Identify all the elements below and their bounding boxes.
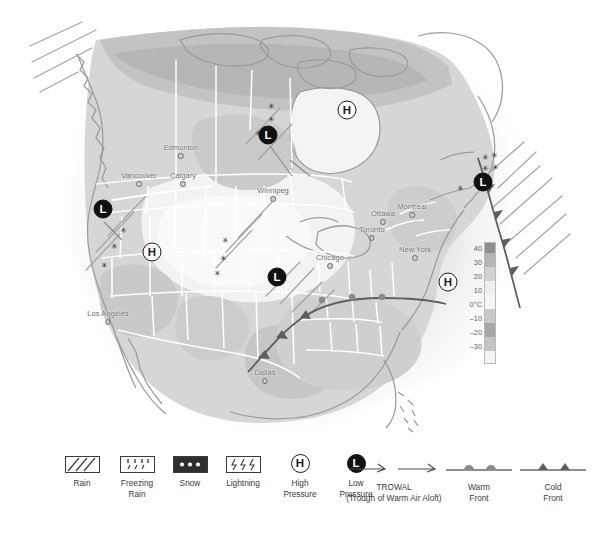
city-label: Los Angeles <box>87 310 128 318</box>
low-pressure-marker[interactable]: L <box>94 200 113 219</box>
temp-tick: –10 <box>470 315 482 323</box>
high-pressure-marker[interactable]: H <box>338 101 357 120</box>
temperature-tick-labels: 40 30 20 10 0°C –10 –20 –30 <box>455 236 482 370</box>
temp-tick: 0°C <box>470 301 482 309</box>
colorbar-segment <box>485 323 495 337</box>
legend-label: Cold <box>516 482 590 493</box>
city-dot <box>409 212 415 218</box>
city-marker[interactable]: Dallas <box>254 369 275 384</box>
rain-icon <box>65 456 100 473</box>
city-marker[interactable]: Calgary <box>170 172 196 187</box>
city-marker[interactable]: Vancouver <box>121 172 157 187</box>
legend-label: Snow <box>166 478 214 489</box>
city-label: Chicago <box>316 254 344 262</box>
city-dot <box>262 378 268 384</box>
city-marker[interactable]: New York <box>399 246 431 261</box>
snow-symbol: ✳ <box>482 155 487 160</box>
snow-symbol: ✳ <box>482 166 487 171</box>
city-dot <box>105 319 111 325</box>
city-dot <box>180 181 186 187</box>
colorbar-segment <box>485 295 495 309</box>
city-marker[interactable]: Ottawa <box>371 210 395 225</box>
city-label: Montreal <box>397 203 427 211</box>
temp-tick: 30 <box>474 259 482 267</box>
snow-symbol: ✳ <box>268 104 273 109</box>
city-dot <box>327 263 333 269</box>
colorbar-segment <box>485 267 495 281</box>
city-label: Dallas <box>254 369 275 377</box>
city-marker[interactable]: Edmonton <box>164 144 199 159</box>
colorbar-segment <box>485 337 495 351</box>
city-label: New York <box>399 246 431 254</box>
legend-label-line2: Front <box>442 493 516 504</box>
city-label: Edmonton <box>164 144 199 152</box>
low-pressure-marker[interactable]: L <box>268 268 287 287</box>
city-dot <box>136 181 142 187</box>
city-dot <box>369 235 375 241</box>
legend-label: Lightning <box>214 478 272 489</box>
colorbar-segment <box>485 243 495 253</box>
city-label: Toronto <box>359 226 384 234</box>
legend-item-lightning[interactable]: Lightning <box>214 456 272 489</box>
low-pressure-marker[interactable]: L <box>474 173 493 192</box>
snow-symbol: ✳ <box>214 271 219 276</box>
legend-label-line2: Rain <box>108 489 166 500</box>
colorbar-segment <box>485 351 495 364</box>
lightning-icon <box>226 456 261 473</box>
cold-front-icon <box>516 460 590 477</box>
colorbar-segment <box>485 281 495 295</box>
legend-item-snow[interactable]: Snow <box>166 456 214 489</box>
snow-symbol: ✳ <box>101 263 106 268</box>
temp-tick: –30 <box>470 343 482 351</box>
city-label: Ottawa <box>371 210 395 218</box>
weather-map-figure: Edmonton Calgary Vancouver Winnipeg Otta… <box>0 0 597 547</box>
legend-label-line2: Front <box>516 493 590 504</box>
city-marker[interactable]: Winnipeg <box>257 187 289 202</box>
temp-tick: 10 <box>474 287 482 295</box>
city-marker[interactable]: Montreal <box>397 203 427 218</box>
temp-tick: –20 <box>470 329 482 337</box>
legend-label: Warm <box>442 482 516 493</box>
legend-label: Rain <box>56 478 108 489</box>
temp-tick: 40 <box>474 245 482 253</box>
legend-item-cold-front[interactable]: Cold Front <box>516 460 590 504</box>
snow-symbol: ✳ <box>255 131 260 136</box>
city-dot <box>178 153 184 159</box>
city-dot <box>270 196 276 202</box>
north-america-weather-map: Edmonton Calgary Vancouver Winnipeg Otta… <box>0 0 597 440</box>
temp-tick: 20 <box>474 273 482 281</box>
map-legend: Rain Freezing Rain <box>0 440 597 547</box>
temperature-colorbar <box>484 242 496 364</box>
snow-symbol: ✳ <box>111 244 116 249</box>
legend-item-rain[interactable]: Rain <box>56 456 108 489</box>
snow-icon <box>173 456 208 473</box>
trowal-icon <box>344 460 444 477</box>
colorbar-segment <box>485 309 495 323</box>
map-graphic <box>0 0 597 440</box>
legend-label: Freezing <box>108 478 166 489</box>
legend-item-warm-front[interactable]: Warm Front <box>442 460 516 504</box>
colorbar-segment <box>485 253 495 267</box>
legend-item-freezing-rain[interactable]: Freezing Rain <box>108 456 166 500</box>
warm-front-icon <box>442 460 516 477</box>
city-dot <box>412 255 418 261</box>
snow-symbol: ✳ <box>457 186 462 191</box>
city-marker[interactable]: Chicago <box>316 254 344 269</box>
city-marker[interactable]: Los Angeles <box>87 310 128 325</box>
snow-symbol: ✳ <box>268 117 273 122</box>
snow-symbol: ✳ <box>491 153 496 158</box>
high-pressure-marker[interactable]: H <box>143 243 162 262</box>
snow-symbol: ✳ <box>222 238 227 243</box>
city-label: Winnipeg <box>257 187 289 195</box>
snow-symbol: ✳ <box>120 228 125 233</box>
snow-symbol: ✳ <box>492 165 497 170</box>
snow-symbol: ✳ <box>220 256 225 261</box>
city-marker[interactable]: Toronto <box>359 226 384 241</box>
city-label: Vancouver <box>121 172 157 180</box>
freezing-rain-icon <box>120 456 155 473</box>
city-label: Calgary <box>170 172 196 180</box>
